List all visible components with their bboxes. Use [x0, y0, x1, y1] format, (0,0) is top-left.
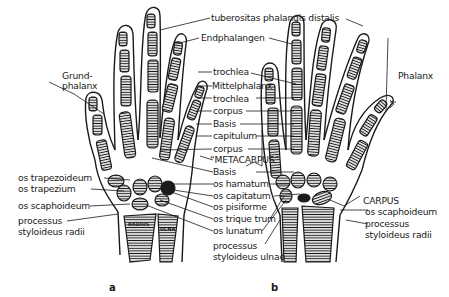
panel-label-a: a [109, 282, 116, 293]
label-trochlea-1: trochlea [213, 67, 249, 77]
bone-text-radius: RADIUS [128, 221, 149, 227]
label-os-hamatum: os hamatum [213, 179, 269, 189]
label-os-triquetrum: os trique trum [213, 214, 276, 224]
label-mittelphalanx: Mittelphalanx [212, 81, 272, 91]
label-corpus-2: corpus [213, 144, 243, 154]
bone-text-ulna: ULNA [160, 226, 175, 232]
label-styloideus-radii-b: styloideus radii [365, 230, 432, 240]
label-processus-c: processus [365, 219, 409, 229]
label-trochlea-2: trochlea [213, 94, 249, 104]
label-corpus-1: corpus [213, 106, 243, 116]
label-processus-a: processus [18, 216, 62, 226]
label-styloideus-radii-a: styloideus radii [18, 227, 85, 237]
label-phalanx: Phalanx [398, 71, 433, 81]
label-endphalangen: Endphalangen [201, 33, 265, 43]
label-metacarpus: “METACARPUS” [210, 155, 279, 165]
label-carpus: CARPUS [363, 196, 399, 206]
label-tuberositas: tuberositas phalangis distalis [211, 13, 339, 23]
label-os-trapezoideum-a: os trapezoideum [18, 173, 92, 183]
label-os-scaphoideum-a: os scaphoideum [18, 201, 90, 211]
label-os-trapezium-a: os trapezium [18, 184, 76, 194]
panel-label-b: b [271, 282, 278, 293]
label-os-capitatum: os capitatum [213, 191, 271, 201]
label-os-pisiforme: os pisiforme [213, 202, 267, 212]
label-os-lunatum: os lunatum [213, 226, 263, 236]
label-grundphalanx-2: phalanx [62, 81, 97, 91]
label-basis-1: Basis [213, 119, 236, 129]
label-capitulum: capitulum [213, 131, 257, 141]
label-basis-2: Basis [213, 167, 236, 177]
label-styloideus-ulnae: styloideus ulnae [213, 252, 285, 262]
label-os-scaphoideum-b: os scaphoideum [365, 207, 437, 217]
label-processus-b: processus [213, 241, 257, 251]
